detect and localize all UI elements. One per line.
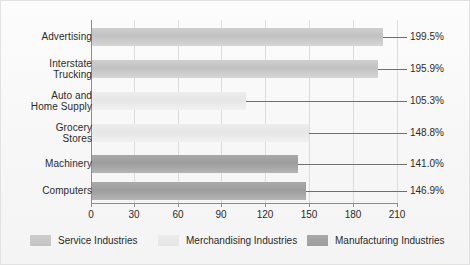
legend-label-merchandising-industries: Merchandising Industries	[186, 235, 297, 246]
bar-auto-and-home-supply	[92, 92, 246, 110]
x-tick	[353, 203, 354, 207]
bar-advertising	[92, 28, 383, 46]
leader-line	[378, 69, 407, 70]
leader-line	[246, 101, 407, 102]
bar-machinery	[92, 155, 298, 173]
bar-computers	[92, 182, 306, 200]
category-label-advertising: Advertising	[41, 31, 92, 42]
leader-line	[306, 191, 407, 192]
category-label-interstate-trucking: Interstate Trucking	[49, 58, 92, 80]
x-tick	[397, 203, 398, 207]
x-tick-label-0: 0	[71, 209, 111, 220]
gridline	[221, 20, 222, 203]
legend-label-manufacturing-industries: Manufacturing Industries	[335, 235, 445, 246]
value-label-auto-and-home-supply: 105.3%	[410, 95, 444, 106]
x-tick-label-120: 120	[245, 209, 285, 220]
value-label-advertising: 199.5%	[410, 31, 444, 42]
leader-line	[383, 37, 407, 38]
value-label-grocery-stores: 148.8%	[410, 127, 444, 138]
gridline	[309, 20, 310, 203]
horizontal-bar-chart: 0 30 60 90 120 150 180 210 Advertising I…	[0, 0, 470, 265]
category-label-auto-and-home-supply: Auto and Home Supply	[31, 90, 92, 112]
x-tick-label-210: 210	[377, 209, 417, 220]
leader-line	[309, 133, 407, 134]
x-tick-label-180: 180	[333, 209, 373, 220]
gridline	[353, 20, 354, 203]
gridline	[134, 20, 135, 203]
legend-swatch-manufacturing-icon	[307, 235, 328, 246]
gridline	[178, 20, 179, 203]
category-label-machinery: Machinery	[45, 158, 92, 169]
x-tick-label-60: 60	[158, 209, 198, 220]
leader-line	[298, 164, 407, 165]
value-label-computers: 146.9%	[410, 185, 444, 196]
x-tick	[265, 203, 266, 207]
x-tick-label-150: 150	[289, 209, 329, 220]
x-tick	[91, 203, 92, 207]
legend-swatch-service-icon	[30, 235, 51, 246]
x-tick	[221, 203, 222, 207]
category-label-grocery-stores: Grocery Stores	[56, 122, 92, 144]
legend-swatch-merchandising-icon	[158, 235, 179, 246]
legend-item-manufacturing-industries[interactable]: Manufacturing Industries	[307, 232, 445, 248]
gridline	[265, 20, 266, 203]
bar-grocery-stores	[92, 124, 309, 142]
x-tick-label-30: 30	[114, 209, 154, 220]
legend-label-service-industries: Service Industries	[58, 235, 137, 246]
legend-item-merchandising-industries[interactable]: Merchandising Industries	[158, 232, 297, 248]
bar-interstate-trucking	[92, 60, 378, 78]
x-tick-label-90: 90	[201, 209, 241, 220]
value-label-interstate-trucking: 195.9%	[410, 63, 444, 74]
x-tick	[134, 203, 135, 207]
legend-item-service-industries[interactable]: Service Industries	[30, 232, 137, 248]
x-tick	[309, 203, 310, 207]
x-axis-line	[91, 203, 398, 204]
category-label-computers: Computers	[42, 185, 92, 196]
value-label-machinery: 141.0%	[410, 158, 444, 169]
chart-legend: Service Industries Merchandising Industr…	[0, 232, 470, 250]
gridline	[397, 20, 398, 203]
x-tick	[178, 203, 179, 207]
